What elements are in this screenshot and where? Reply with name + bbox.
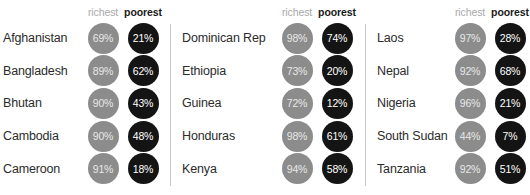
poorest-bubble-wrap: 12% — [317, 88, 357, 119]
table-row: Cambodia 90% 48% — [0, 120, 171, 153]
poorest-bubble-wrap: 74% — [317, 23, 357, 54]
table-row: Tanzania 92% 51% — [366, 152, 528, 185]
poorest-bubble-wrap: 51% — [490, 153, 530, 184]
row-bubbles: 94% 58% — [277, 152, 357, 185]
richest-value-bubble: 90% — [88, 121, 119, 152]
country-label: Dominican Rep — [171, 31, 275, 45]
richest-bubble-wrap: 91% — [83, 153, 123, 184]
poorest-value-bubble: 51% — [495, 153, 526, 184]
header-poorest: poorest — [490, 6, 530, 18]
richest-bubble-wrap: 94% — [277, 153, 317, 184]
richest-value-bubble: 96% — [455, 88, 486, 119]
poorest-bubble-wrap: 48% — [123, 121, 163, 152]
poorest-bubble-wrap: 20% — [317, 55, 357, 86]
richest-bubble-wrap: 69% — [83, 23, 123, 54]
richest-value-bubble: 97% — [455, 23, 486, 54]
country-label: Tanzania — [366, 162, 455, 176]
table-row: South Sudan 44% 7% — [366, 120, 528, 153]
poorest-bubble-wrap: 58% — [317, 153, 357, 184]
country-label: Bhutan — [0, 96, 85, 110]
row-bubbles: 91% 18% — [83, 152, 163, 185]
poorest-bubble-wrap: 28% — [490, 23, 530, 54]
poorest-value-bubble: 68% — [495, 55, 526, 86]
poorest-bubble-wrap: 7% — [490, 121, 530, 152]
row-bubbles: 97% 28% — [450, 22, 530, 55]
poorest-value-bubble: 62% — [128, 55, 159, 86]
header-richest: richest — [277, 6, 317, 18]
panel-3-header: richest poorest — [450, 5, 530, 19]
row-bubbles: 89% 62% — [83, 55, 163, 88]
row-bubbles: 96% 21% — [450, 87, 530, 120]
poorest-bubble-wrap: 18% — [123, 153, 163, 184]
poorest-value-bubble: 12% — [322, 88, 353, 119]
table-row: Dominican Rep 98% 74% — [171, 22, 366, 55]
country-label: Cambodia — [0, 129, 85, 143]
table-row: Honduras 98% 61% — [171, 120, 366, 153]
country-label: Honduras — [171, 129, 275, 143]
country-label: Kenya — [171, 162, 275, 176]
richest-value-bubble: 94% — [282, 153, 313, 184]
richest-value-bubble: 98% — [282, 121, 313, 152]
richest-value-bubble: 91% — [88, 153, 119, 184]
richest-bubble-wrap: 90% — [83, 88, 123, 119]
row-bubbles: 98% 74% — [277, 22, 357, 55]
richest-bubble-wrap: 72% — [277, 88, 317, 119]
poorest-value-bubble: 48% — [128, 121, 159, 152]
richest-bubble-wrap: 44% — [450, 121, 490, 152]
row-bubbles: 69% 21% — [83, 22, 163, 55]
richest-bubble-wrap: 92% — [450, 153, 490, 184]
poorest-value-bubble: 43% — [128, 88, 159, 119]
country-label: Afghanistan — [0, 31, 85, 45]
panel-2-header: richest poorest — [277, 5, 357, 19]
row-bubbles: 98% 61% — [277, 120, 357, 153]
poorest-value-bubble: 28% — [495, 23, 526, 54]
header-poorest: poorest — [123, 6, 163, 18]
poorest-bubble-wrap: 21% — [123, 23, 163, 54]
poorest-value-bubble: 18% — [128, 153, 159, 184]
table-row: Bangladesh 89% 62% — [0, 55, 171, 88]
poorest-value-bubble: 21% — [495, 88, 526, 119]
richest-bubble-wrap: 89% — [83, 55, 123, 86]
richest-bubble-wrap: 92% — [450, 55, 490, 86]
country-label: Guinea — [171, 96, 275, 110]
poorest-value-bubble: 58% — [322, 153, 353, 184]
row-bubbles: 90% 43% — [83, 87, 163, 120]
table-row: Nepal 92% 68% — [366, 55, 528, 88]
poorest-value-bubble: 21% — [128, 23, 159, 54]
richest-value-bubble: 73% — [282, 55, 313, 86]
poorest-value-bubble: 7% — [495, 121, 526, 152]
richest-bubble-wrap: 97% — [450, 23, 490, 54]
richest-bubble-wrap: 73% — [277, 55, 317, 86]
poorest-value-bubble: 74% — [322, 23, 353, 54]
panel-3-rows: Laos 97% 28% Nepal 92% 68 — [366, 22, 528, 185]
panel-1-header: richest poorest — [83, 5, 163, 19]
poorest-bubble-wrap: 61% — [317, 121, 357, 152]
country-label: Laos — [366, 31, 455, 45]
row-bubbles: 44% 7% — [450, 120, 530, 153]
richest-bubble-wrap: 98% — [277, 121, 317, 152]
country-label: Nigeria — [366, 96, 455, 110]
chart-panel-3: richest poorest Laos 97% 28% Nepal — [366, 0, 528, 195]
chart-panel-2: richest poorest Dominican Rep 98% 74% Et… — [171, 0, 366, 195]
poorest-bubble-wrap: 68% — [490, 55, 530, 86]
row-bubbles: 92% 51% — [450, 152, 530, 185]
table-row: Bhutan 90% 43% — [0, 87, 171, 120]
panel-2-rows: Dominican Rep 98% 74% Ethiopia 73% — [171, 22, 366, 185]
row-bubbles: 90% 48% — [83, 120, 163, 153]
table-row: Cameroon 91% 18% — [0, 152, 171, 185]
table-row: Kenya 94% 58% — [171, 152, 366, 185]
country-label: Cameroon — [0, 162, 85, 176]
header-richest: richest — [83, 6, 123, 18]
richest-bubble-wrap: 90% — [83, 121, 123, 152]
header-richest: richest — [450, 6, 490, 18]
richest-value-bubble: 89% — [88, 55, 119, 86]
richest-value-bubble: 92% — [455, 55, 486, 86]
richest-bubble-wrap: 98% — [277, 23, 317, 54]
poorest-value-bubble: 20% — [322, 55, 353, 86]
table-row: Laos 97% 28% — [366, 22, 528, 55]
header-poorest: poorest — [317, 6, 357, 18]
country-label: Ethiopia — [171, 64, 275, 78]
country-label: Nepal — [366, 64, 455, 78]
row-bubbles: 92% 68% — [450, 55, 530, 88]
